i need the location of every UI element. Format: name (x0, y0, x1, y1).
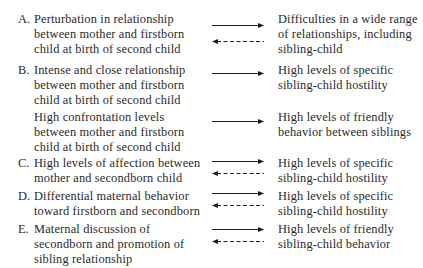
effect-line: High levels of specific (278, 189, 393, 204)
effect-line: High levels of specific (278, 156, 393, 171)
effect-line: behavior between siblings (278, 125, 411, 140)
cause-line: child at birth of second child (34, 140, 184, 155)
cause-line: Intense and close relationship (34, 63, 185, 78)
effect-line: sibling-child (278, 42, 418, 57)
row-c-effect: High levels of specific sibling-child ho… (278, 156, 393, 186)
row-d-effect: High levels of specific sibling-child ho… (278, 189, 393, 219)
cause-line: sibling relationship (34, 252, 184, 267)
row-a-effect: Difficulties in a wide range of relation… (278, 12, 418, 58)
forward-solid-arrow-icon (212, 70, 264, 77)
effect-line: sibling-child hostility (278, 78, 393, 93)
row-b-effect: High levels of specific sibling-child ho… (278, 63, 393, 93)
cause-line: mother and secondborn child (34, 171, 200, 186)
row-b-cause: Intense and close relationship between m… (34, 63, 185, 109)
row-c-cause: High levels of affection between mother … (34, 156, 200, 186)
row-a-cause: Perturbation in relationship between mot… (34, 12, 184, 58)
row-b2-effect: High levels of friendly behavior between… (278, 110, 411, 140)
effect-line: High levels of friendly (278, 222, 394, 237)
forward-solid-arrow-icon (212, 226, 264, 233)
row-e-letter: E. (18, 222, 29, 237)
cause-line: Differential maternal behavior (34, 189, 200, 204)
cause-line: toward firstborn and secondborn (34, 204, 200, 219)
effect-line: Difficulties in a wide range (278, 12, 418, 27)
cause-line: High confrontation levels (34, 110, 184, 125)
cause-line: child at birth of second child (34, 93, 185, 108)
cause-line: child at birth of second child (34, 42, 184, 57)
effect-line: High levels of friendly (278, 110, 411, 125)
forward-solid-arrow-icon (212, 118, 264, 125)
cause-line: secondborn and promotion of (34, 237, 184, 252)
row-e-cause: Maternal discussion of secondborn and pr… (34, 222, 184, 268)
backward-dashed-arrow-icon (212, 170, 264, 177)
row-e-effect: High levels of friendly sibling-child be… (278, 222, 394, 252)
cause-line: Maternal discussion of (34, 222, 184, 237)
effect-line: sibling-child hostility (278, 204, 393, 219)
cause-line: between mother and firstborn (34, 27, 184, 42)
forward-solid-arrow-icon (212, 190, 264, 197)
cause-line: between mother and firstborn (34, 125, 184, 140)
effect-line: High levels of specific (278, 63, 393, 78)
effect-line: sibling-child hostility (278, 171, 393, 186)
row-d-cause: Differential maternal behavior toward fi… (34, 189, 200, 219)
backward-dashed-arrow-icon (212, 238, 264, 245)
cause-line: between mother and firstborn (34, 78, 185, 93)
row-d-letter: D. (18, 189, 30, 204)
row-b2-cause: High confrontation levels between mother… (34, 110, 184, 156)
backward-dashed-arrow-icon (212, 38, 264, 45)
effect-line: sibling-child behavior (278, 237, 394, 252)
forward-solid-arrow-icon (212, 22, 264, 29)
backward-dashed-arrow-icon (212, 202, 264, 209)
row-a-letter: A. (18, 12, 30, 27)
row-b-letter: B. (18, 63, 29, 78)
cause-line: Perturbation in relationship (34, 12, 184, 27)
forward-solid-arrow-icon (212, 158, 264, 165)
cause-line: High levels of affection between (34, 156, 200, 171)
row-c-letter: C. (18, 156, 29, 171)
effect-line: of relationships, including (278, 27, 418, 42)
